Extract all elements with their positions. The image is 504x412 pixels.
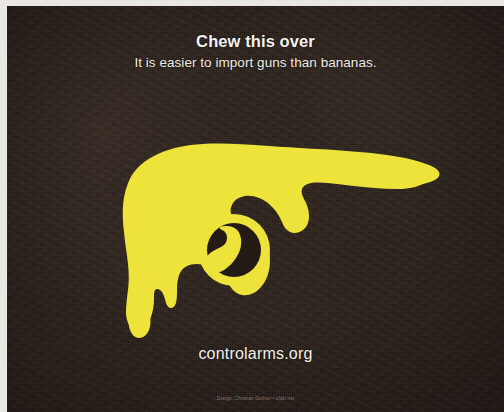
banana-revolver-shape [123, 144, 440, 338]
credit-block: Design: Christian Guthier • ofdkt.net [7, 386, 504, 404]
campaign-url-link[interactable]: controlarms.org [198, 345, 312, 362]
page-title: Chew this over [7, 32, 504, 51]
subtitle-text: It is easier to import guns than bananas… [7, 55, 504, 71]
headline-copy-block: Chew this over It is easier to import gu… [7, 32, 504, 71]
stem-tip-detail [129, 306, 151, 338]
url-block: controlarms.org [7, 345, 504, 363]
advertisement-poster: Chew this over It is easier to import gu… [7, 6, 504, 412]
designer-credit-text: Design: Christian Guthier • ofdkt.net [217, 396, 295, 401]
scanned-page: Chew this over It is easier to import gu… [0, 0, 504, 412]
